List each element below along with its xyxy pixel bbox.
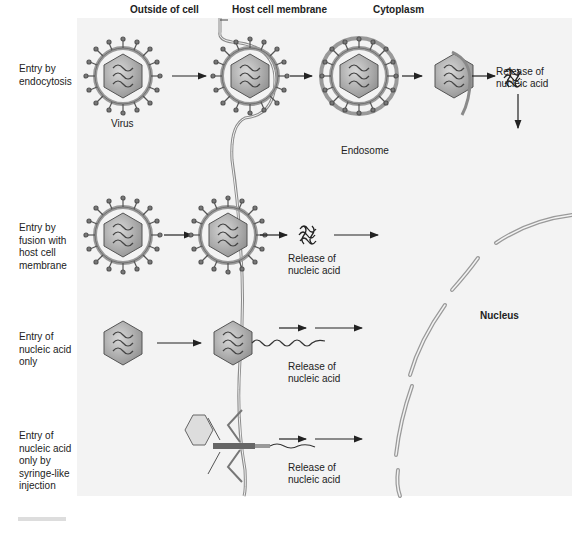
uncoating-virus-icon bbox=[435, 52, 473, 115]
label-virus: Virus bbox=[111, 118, 134, 130]
row-label-syringe-injection: Entry ofnucleic acidonly bysyringe-likei… bbox=[19, 430, 71, 493]
capsid-icon bbox=[104, 321, 142, 365]
header-cytoplasm: Cytoplasm bbox=[373, 4, 424, 15]
label-release-1: Release ofnucleic acid bbox=[496, 66, 548, 90]
label-release-2: Release ofnucleic acid bbox=[288, 253, 340, 277]
header-outside-of-cell: Outside of cell bbox=[130, 4, 199, 15]
nucleic-acid-icon bbox=[299, 226, 316, 244]
label-release-3: Release ofnucleic acid bbox=[288, 361, 340, 385]
diagram-artwork bbox=[0, 0, 572, 533]
row-label-nucleic-acid-only: Entry ofnucleic acidonly bbox=[19, 331, 71, 369]
virus-fusing-icon bbox=[189, 196, 267, 274]
label-endosome: Endosome bbox=[341, 145, 389, 157]
row-label-fusion: Entry byfusion withhost cellmembrane bbox=[19, 222, 67, 272]
nuclear-envelope bbox=[396, 215, 572, 496]
label-nucleus: Nucleus bbox=[480, 310, 519, 321]
virus-entering-icon bbox=[211, 37, 289, 115]
label-release-4: Release ofnucleic acid bbox=[288, 462, 340, 486]
capsid-injecting-icon bbox=[214, 321, 252, 365]
header-host-cell-membrane: Host cell membrane bbox=[232, 4, 327, 15]
virus-icon bbox=[84, 196, 162, 274]
row-label-endocytosis: Entry byendocytosis bbox=[19, 63, 72, 88]
virus-icon bbox=[84, 37, 162, 115]
caption-placeholder bbox=[18, 517, 66, 521]
